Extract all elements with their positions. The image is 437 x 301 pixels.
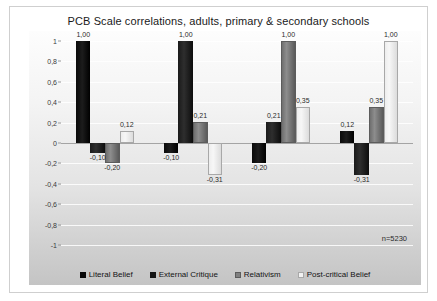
y-axis-tick-mark: [58, 102, 61, 103]
y-axis-tick-label: 0,2: [47, 119, 57, 126]
plot-area: 10,80,60,40,20-0,2-0,4-0,6-0,8-1 1,00-0,…: [61, 41, 413, 245]
y-axis-tick-mark: [58, 163, 61, 164]
y-axis-tick-mark: [58, 204, 61, 205]
bar-external-critique-2: [266, 122, 281, 143]
legend-label: External Critique: [159, 270, 218, 279]
sample-size-annotation: n=5230: [382, 234, 407, 243]
data-label: -0,31: [354, 176, 370, 183]
legend-label: Relativism: [244, 270, 281, 279]
data-label: 1,00: [179, 31, 193, 38]
gridline: [61, 102, 413, 103]
y-axis-tick-label: -0,2: [45, 160, 57, 167]
gridline: [61, 41, 413, 42]
data-label: 1,00: [384, 31, 398, 38]
bar-relativism-2: [281, 41, 296, 143]
gridline: [61, 225, 413, 226]
bar-relativism-1: [193, 122, 208, 143]
y-axis-tick-label: 0,4: [47, 99, 57, 106]
bar-literal-belief-2: [252, 143, 267, 163]
data-label: 1,00: [76, 31, 90, 38]
y-axis-tick-mark: [58, 122, 61, 123]
bar-external-critique-3: [354, 143, 369, 175]
legend-swatch-icon: [150, 272, 156, 278]
gridline: [61, 82, 413, 83]
data-label: 0,12: [120, 121, 134, 128]
y-axis-tick-mark: [58, 183, 61, 184]
y-axis-tick-mark: [58, 61, 61, 62]
y-axis-tick-label: 0: [53, 140, 57, 147]
data-label: -0,20: [251, 164, 267, 171]
y-axis-tick-mark: [58, 81, 61, 82]
y-axis-tick-mark: [58, 143, 61, 144]
chart-plot-panel: 10,80,60,40,20-0,2-0,4-0,6-0,8-1 1,00-0,…: [29, 31, 421, 285]
data-label: -0,20: [104, 164, 120, 171]
y-axis-tick-label: -1: [51, 242, 57, 249]
bar-relativism-0: [105, 143, 120, 163]
data-label: -0,10: [90, 154, 106, 161]
legend-swatch-icon: [298, 272, 304, 278]
gridline: [61, 184, 413, 185]
legend-label: Literal Belief: [89, 270, 133, 279]
data-label: -0,31: [207, 176, 223, 183]
bar-external-critique-0: [90, 143, 105, 153]
bar-literal-belief-3: [340, 131, 355, 143]
data-label: 0,21: [267, 112, 281, 119]
bar-post-critical-belief-3: [384, 41, 399, 143]
y-axis-tick-label: -0,4: [45, 180, 57, 187]
legend-item-external-critique[interactable]: External Critique: [150, 270, 218, 279]
data-label: -0,10: [163, 154, 179, 161]
bar-post-critical-belief-2: [296, 107, 311, 143]
legend-swatch-icon: [80, 272, 86, 278]
bar-post-critical-belief-0: [120, 131, 135, 143]
y-axis-tick-label: -0,6: [45, 201, 57, 208]
gridline: [61, 204, 413, 205]
y-axis-tick-mark: [58, 245, 61, 246]
chart-frame: PCB Scale correlations, adults, primary …: [9, 6, 428, 293]
data-label: 0,35: [296, 97, 310, 104]
gridline: [61, 245, 413, 246]
y-axis-tick-label: 0,8: [47, 58, 57, 65]
data-label: 1,00: [281, 31, 295, 38]
bar-external-critique-1: [178, 41, 193, 143]
y-axis-tick-mark: [58, 224, 61, 225]
gridline: [61, 123, 413, 124]
legend-item-relativism[interactable]: Relativism: [235, 270, 281, 279]
legend-label: Post-critical Belief: [307, 270, 371, 279]
y-axis-tick-mark: [58, 41, 61, 42]
bar-literal-belief-1: [164, 143, 179, 153]
legend-swatch-icon: [235, 272, 241, 278]
gridline: [61, 61, 413, 62]
bar-relativism-3: [369, 107, 384, 143]
chart-legend: Literal BeliefExternal CritiqueRelativis…: [29, 270, 421, 279]
y-axis-tick-label: -0,8: [45, 221, 57, 228]
bar-post-critical-belief-1: [208, 143, 223, 175]
y-axis-tick-label: 0,6: [47, 78, 57, 85]
data-label: 0,12: [340, 121, 354, 128]
legend-item-post-critical-belief[interactable]: Post-critical Belief: [298, 270, 371, 279]
data-label: 0,35: [369, 97, 383, 104]
data-label: 0,21: [193, 112, 207, 119]
y-axis-tick-label: 1: [53, 38, 57, 45]
legend-item-literal-belief[interactable]: Literal Belief: [80, 270, 133, 279]
bar-literal-belief-0: [76, 41, 91, 143]
chart-title: PCB Scale correlations, adults, primary …: [10, 15, 427, 27]
